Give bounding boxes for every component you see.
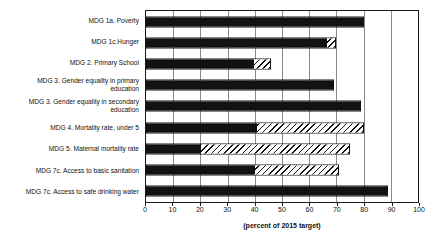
x-tick-label-0: 0 xyxy=(143,206,147,213)
bar-segment-gap xyxy=(201,144,349,153)
bar-segment-achieved xyxy=(147,123,257,132)
bar-series-group xyxy=(146,11,418,202)
bar-row xyxy=(146,160,418,181)
bar-row xyxy=(146,53,418,74)
bar-row xyxy=(146,181,418,202)
bar xyxy=(146,80,334,91)
bar-segment-achieved xyxy=(147,102,360,111)
category-label: MDG 7c. Access to basic sanitation xyxy=(0,160,142,181)
x-tick-label-50: 50 xyxy=(278,206,286,213)
bar-segment-gap xyxy=(257,123,362,132)
bar-segment-achieved xyxy=(147,38,327,47)
bar-row xyxy=(146,138,418,159)
bar-segment-achieved xyxy=(147,144,201,153)
bar-segment-achieved xyxy=(147,17,363,26)
bar xyxy=(146,165,339,176)
bar xyxy=(146,122,364,133)
category-label: MDG 5. Maternal mortality rate xyxy=(0,139,142,160)
bar-row xyxy=(146,11,418,32)
bar-row xyxy=(146,117,418,138)
category-label: MDG 3. Gender equality in primary educat… xyxy=(0,74,142,95)
plot-area xyxy=(145,10,419,203)
category-label: MDG 1c.Hunger xyxy=(0,31,142,52)
bar-segment-gap xyxy=(254,60,270,69)
bar-segment-achieved xyxy=(147,166,255,175)
bar-segment-gap xyxy=(255,166,338,175)
category-label: MDG 2. Primary School xyxy=(0,53,142,74)
bar xyxy=(146,37,336,48)
category-label: MDG 7c. Access to safe drinking water xyxy=(0,182,142,203)
chart-title xyxy=(0,0,426,1)
bar-row xyxy=(146,75,418,96)
bar xyxy=(146,101,361,112)
x-tick-label-20: 20 xyxy=(196,206,204,213)
x-tick-label-30: 30 xyxy=(223,206,231,213)
x-axis-title: (percent of 2015 target) xyxy=(145,222,419,229)
bar-segment-achieved xyxy=(147,60,254,69)
bar-segment-gap xyxy=(327,38,335,47)
category-label: MDG 1a. Poverty xyxy=(0,10,142,31)
bar xyxy=(146,59,271,70)
category-label: MDG 3. Gender equality in secondary educ… xyxy=(0,96,142,117)
x-tick-label-60: 60 xyxy=(305,206,313,213)
bar-row xyxy=(146,32,418,53)
bar-segment-achieved xyxy=(147,81,333,90)
chart-figure: MDG 1a. PovertyMDG 1c.HungerMDG 2. Prima… xyxy=(0,0,426,239)
bar-segment-achieved xyxy=(147,187,387,196)
bar xyxy=(146,16,364,27)
x-tick-label-90: 90 xyxy=(388,206,396,213)
category-axis-labels: MDG 1a. PovertyMDG 1c.HungerMDG 2. Prima… xyxy=(0,10,142,203)
bar-row xyxy=(146,96,418,117)
bar xyxy=(146,186,388,197)
x-tick-label-70: 70 xyxy=(333,206,341,213)
x-tick-label-100: 100 xyxy=(413,206,425,213)
category-label: MDG 4. Mortality rate, under 5 xyxy=(0,117,142,138)
x-tick-label-40: 40 xyxy=(251,206,259,213)
x-tick-label-80: 80 xyxy=(360,206,368,213)
x-tick-label-10: 10 xyxy=(168,206,176,213)
x-axis-tick-labels: 0102030405060708090100 xyxy=(145,206,419,218)
bar xyxy=(146,143,350,154)
